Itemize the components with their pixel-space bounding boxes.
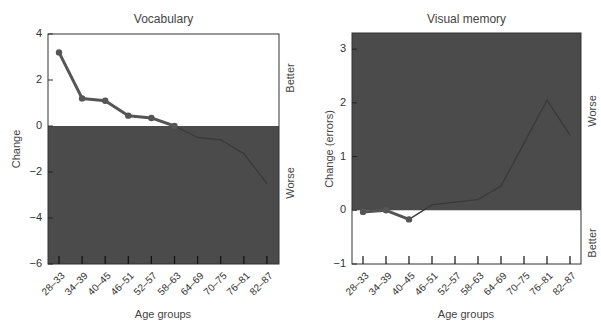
y-tick-label: 3 [326, 42, 346, 54]
y-tick-label: 1 [326, 150, 346, 162]
series-line-segment [386, 210, 409, 219]
series-line-segment [363, 210, 386, 212]
y-tick-label: 0 [326, 203, 346, 215]
data-point [406, 216, 412, 222]
worse-region [352, 33, 581, 210]
data-point [360, 209, 366, 215]
worse-label: Worse [586, 91, 598, 131]
better-label: Better [586, 223, 598, 263]
data-point [383, 207, 389, 213]
visual-memory-chart: Visual memory Change (errors) Age groups… [0, 0, 601, 331]
y-tick-label: −1 [326, 257, 346, 269]
y-tick-label: 2 [326, 96, 346, 108]
x-axis-label: Age groups [416, 308, 516, 320]
